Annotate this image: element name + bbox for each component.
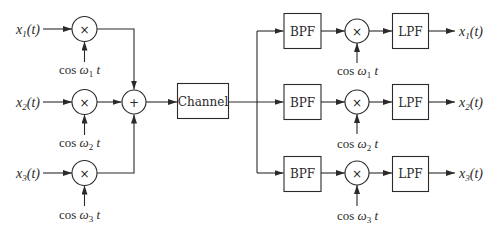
multiply-icon: × (79, 23, 89, 37)
rx-carrier-label-3: cos ω3 t (337, 208, 379, 225)
multiply-icon: × (352, 167, 362, 181)
tx-branch-1: x1(t) × cos ω1 t (15, 17, 134, 90)
wire-mult3-to-summer (97, 115, 134, 174)
rx-carrier-label-2: cos ω2 t (337, 136, 379, 153)
carrier-label-3: cos ω3 t (59, 207, 101, 224)
wire-mult1-to-summer (97, 29, 134, 90)
input-label-x3: x3(t) (15, 166, 40, 183)
fdm-block-diagram: x1(t) × cos ω1 t x2(t) × cos ω2 t x3(t) … (0, 0, 498, 233)
carrier-label-2: cos ω2 t (59, 135, 101, 152)
channel-label: Channel (178, 95, 229, 109)
rx-branch-1: BPF × cos ω1 t LPF x1(t) (284, 14, 483, 81)
tx-branch-3: x3(t) × cos ω3 t (15, 115, 134, 225)
multiply-icon: × (352, 25, 362, 39)
bpf-label-2: BPF (290, 96, 315, 110)
multiply-icon: × (79, 167, 89, 181)
bpf-label-3: BPF (290, 167, 315, 181)
multiply-icon: × (352, 96, 362, 110)
carrier-label-1: cos ω1 t (59, 62, 101, 79)
output-label-x2: x2(t) (458, 95, 483, 112)
summer: + (122, 90, 177, 114)
lpf-label-3: LPF (398, 167, 422, 181)
channel-block: Channel (178, 84, 229, 119)
multiply-icon: × (79, 96, 89, 110)
rx-branch-3: BPF × cos ω3 t LPF x3(t) (284, 157, 483, 226)
bpf-label-1: BPF (290, 25, 315, 39)
split-bus (229, 31, 284, 173)
lpf-label-1: LPF (398, 25, 422, 39)
output-label-x1: x1(t) (458, 24, 483, 41)
plus-icon: + (129, 96, 139, 110)
input-label-x2: x2(t) (15, 95, 40, 112)
rx-carrier-label-1: cos ω1 t (337, 63, 379, 80)
tx-branch-2: x2(t) × cos ω2 t (15, 90, 122, 153)
output-label-x3: x3(t) (458, 166, 483, 183)
input-label-x1: x1(t) (15, 22, 40, 39)
lpf-label-2: LPF (398, 96, 422, 110)
rx-branch-2: BPF × cos ω2 t LPF x2(t) (284, 85, 483, 154)
